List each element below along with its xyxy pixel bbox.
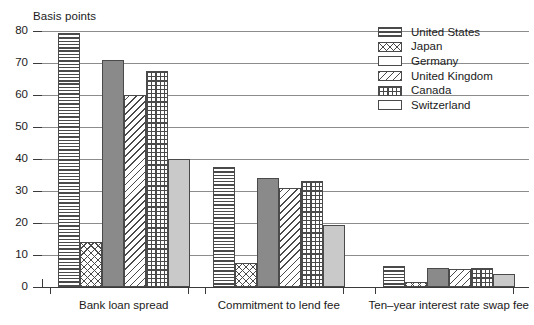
y-tick-label-50: 50 bbox=[2, 121, 28, 131]
bar-united-states-group-1 bbox=[58, 33, 80, 287]
bar-canada-group-3 bbox=[471, 268, 493, 287]
legend-label-switzerland: Switzerland bbox=[411, 100, 470, 111]
legend-swatch-united-states-icon bbox=[378, 27, 402, 37]
legend-item-switzerland[interactable]: Switzerland bbox=[378, 98, 530, 113]
x-tick-5 bbox=[375, 287, 376, 294]
bar-united-kingdom-group-2 bbox=[279, 188, 301, 287]
x-axis-group-label-3: Ten–year interest rate swap fee bbox=[339, 299, 534, 311]
bar-japan-group-1 bbox=[80, 242, 102, 287]
x-tick-4 bbox=[343, 287, 344, 294]
y-tick-70 bbox=[33, 63, 42, 64]
y-tick-label-70: 70 bbox=[2, 57, 28, 67]
y-tick-80 bbox=[33, 31, 42, 32]
y-tick-30 bbox=[33, 191, 42, 192]
x-tick-3 bbox=[205, 287, 206, 294]
bar-switzerland-group-3 bbox=[493, 274, 515, 287]
y-tick-50 bbox=[33, 127, 42, 128]
bar-germany-group-3 bbox=[427, 268, 449, 287]
y-axis-title: Basis points bbox=[33, 10, 96, 22]
y-axis-stub bbox=[42, 279, 43, 288]
chart-legend: United StatesJapanGermanyUnited KingdomC… bbox=[378, 25, 530, 113]
legend-swatch-germany-icon bbox=[378, 56, 402, 66]
bar-germany-group-2 bbox=[257, 178, 279, 287]
legend-swatch-united-kingdom-icon bbox=[378, 71, 402, 81]
bar-united-kingdom-group-1 bbox=[124, 95, 146, 287]
legend-label-japan: Japan bbox=[411, 41, 442, 52]
y-tick-0 bbox=[33, 287, 42, 288]
x-tick-1 bbox=[50, 287, 51, 294]
legend-item-germany[interactable]: Germany bbox=[378, 54, 530, 69]
y-tick-10 bbox=[33, 255, 42, 256]
legend-item-japan[interactable]: Japan bbox=[378, 40, 530, 55]
legend-label-canada: Canada bbox=[411, 85, 451, 96]
y-tick-label-30: 30 bbox=[2, 185, 28, 195]
bar-canada-group-2 bbox=[301, 181, 323, 287]
bar-chart-figure: Basis points 01020304050607080Bank loan … bbox=[0, 0, 534, 325]
bar-switzerland-group-2 bbox=[323, 225, 345, 287]
legend-label-germany: Germany bbox=[411, 56, 458, 67]
x-tick-6 bbox=[513, 287, 514, 294]
legend-swatch-switzerland-icon bbox=[378, 100, 402, 110]
legend-item-canada[interactable]: Canada bbox=[378, 83, 530, 98]
legend-label-united-kingdom: United Kingdom bbox=[411, 71, 493, 82]
y-tick-label-10: 10 bbox=[2, 249, 28, 259]
legend-item-united-states[interactable]: United States bbox=[378, 25, 530, 40]
x-tick-2 bbox=[188, 287, 189, 294]
legend-item-united-kingdom[interactable]: United Kingdom bbox=[378, 69, 530, 84]
bar-united-states-group-2 bbox=[213, 167, 235, 287]
bar-germany-group-1 bbox=[102, 60, 124, 287]
bar-switzerland-group-1 bbox=[168, 159, 190, 287]
legend-swatch-canada-icon bbox=[378, 86, 402, 96]
bar-united-kingdom-group-3 bbox=[449, 269, 471, 287]
legend-label-united-states: United States bbox=[411, 27, 480, 38]
bar-japan-group-3 bbox=[405, 282, 427, 287]
y-tick-label-0: 0 bbox=[2, 281, 28, 291]
legend-swatch-japan-icon bbox=[378, 42, 402, 52]
y-tick-60 bbox=[33, 95, 42, 96]
bar-canada-group-1 bbox=[146, 71, 168, 287]
y-tick-40 bbox=[33, 159, 42, 160]
x-axis-baseline bbox=[42, 287, 529, 288]
y-tick-label-80: 80 bbox=[2, 25, 28, 35]
bar-united-states-group-3 bbox=[383, 266, 405, 287]
y-tick-label-40: 40 bbox=[2, 153, 28, 163]
y-tick-label-20: 20 bbox=[2, 217, 28, 227]
y-tick-20 bbox=[33, 223, 42, 224]
y-tick-label-60: 60 bbox=[2, 89, 28, 99]
bar-japan-group-2 bbox=[235, 263, 257, 287]
